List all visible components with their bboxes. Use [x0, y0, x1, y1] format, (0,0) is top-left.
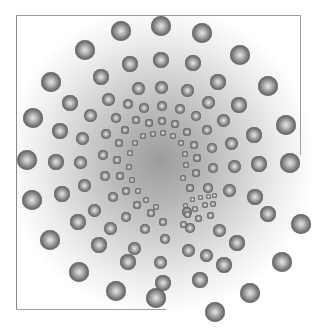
sphere	[192, 206, 198, 212]
sphere	[184, 211, 191, 218]
sphere	[91, 237, 107, 253]
sphere	[193, 154, 201, 162]
sphere	[121, 212, 131, 222]
sphere	[272, 252, 292, 272]
frame-bottom-edge	[16, 309, 166, 310]
sphere	[101, 129, 111, 139]
sphere	[128, 242, 141, 255]
sphere	[200, 249, 213, 262]
sphere	[192, 23, 212, 43]
sphere	[76, 132, 89, 145]
sphere	[258, 76, 278, 96]
sphere	[185, 223, 195, 233]
sphere	[205, 302, 225, 322]
sphere	[111, 113, 121, 123]
sphere	[140, 224, 150, 234]
sphere	[154, 256, 167, 269]
sphere	[208, 163, 218, 173]
sphere	[135, 188, 141, 194]
sphere	[157, 101, 167, 111]
sphere	[231, 97, 247, 113]
sphere	[207, 212, 214, 219]
sphere	[129, 177, 135, 183]
sphere	[78, 179, 91, 192]
sphere	[171, 120, 179, 128]
sphere	[133, 201, 141, 209]
sphere	[132, 82, 145, 95]
sphere	[22, 190, 42, 210]
sphere	[155, 81, 168, 94]
sphere	[75, 40, 95, 60]
sphere	[122, 187, 130, 195]
sphere	[153, 204, 159, 210]
sphere	[145, 119, 153, 127]
sphere	[198, 195, 203, 200]
sphere	[155, 275, 171, 291]
sphere	[132, 116, 140, 124]
sphere	[260, 206, 276, 222]
sphere	[183, 128, 191, 136]
sphere	[98, 150, 108, 160]
sphere	[185, 55, 201, 71]
sphere	[280, 153, 300, 173]
sphere	[74, 156, 87, 169]
sphere	[202, 96, 215, 109]
sphere	[170, 133, 176, 139]
sphere	[52, 123, 68, 139]
sphere	[146, 288, 166, 308]
sphere	[207, 143, 217, 153]
sphere	[192, 169, 200, 177]
sphere	[159, 218, 167, 226]
sphere	[202, 125, 212, 135]
sphere	[160, 234, 170, 244]
sphere	[158, 117, 166, 125]
sphere	[230, 45, 250, 65]
sphere	[106, 281, 126, 301]
sphere	[175, 104, 185, 114]
sphere	[183, 203, 188, 208]
sphere	[120, 254, 136, 270]
sphere	[116, 172, 124, 180]
sphere	[126, 164, 132, 170]
sphere	[178, 140, 184, 146]
sphere	[40, 230, 60, 250]
sphere	[182, 244, 195, 257]
sphere	[123, 99, 133, 109]
sphere	[108, 192, 118, 202]
sphere	[140, 133, 146, 139]
sphere	[183, 162, 189, 168]
sphere	[191, 111, 201, 121]
sphere	[192, 272, 208, 288]
sphere	[23, 108, 43, 128]
sphere	[104, 222, 117, 235]
sphere	[41, 72, 61, 92]
sphere	[180, 221, 187, 228]
sphere	[217, 114, 230, 127]
sphere	[181, 84, 194, 97]
sphere	[54, 186, 70, 202]
sphere	[182, 151, 188, 157]
sphere	[84, 109, 97, 122]
sphere	[100, 171, 110, 181]
sphere	[229, 235, 245, 251]
sphere	[88, 204, 101, 217]
frame-right-edge	[300, 15, 301, 155]
sphere	[240, 283, 260, 303]
sphere	[186, 184, 194, 192]
sphere	[122, 56, 138, 72]
sphere	[228, 160, 241, 173]
sphere	[251, 156, 267, 172]
sphere	[17, 150, 37, 170]
sphere	[139, 103, 149, 113]
sphere	[93, 69, 109, 85]
sphere	[246, 127, 262, 143]
sphere	[202, 202, 208, 208]
sphere	[153, 52, 169, 68]
sphere	[225, 137, 238, 150]
sphere	[190, 197, 195, 202]
sphere	[143, 197, 149, 203]
illusion-canvas	[0, 0, 328, 330]
sphere	[203, 183, 213, 193]
sphere	[276, 115, 296, 135]
sphere	[247, 189, 263, 205]
